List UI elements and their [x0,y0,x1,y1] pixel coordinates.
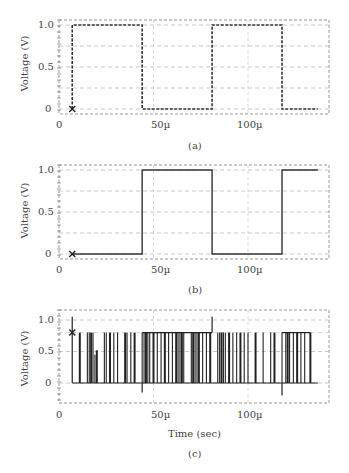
y-tick-05: 0.5 [38,206,54,217]
x-tick-100: 100µ [237,119,263,130]
panel-b: Voltage (V) 1.0 0.5 0 0 50µ 100µ (b) [0,150,349,305]
y-tick-05: 0.5 [38,345,54,356]
panel-a: Voltage (V) 1.0 0.5 0 0 50µ 100µ (a) [0,0,349,150]
caption-b: (b) [188,284,202,295]
chart-c-plot [0,305,349,473]
x-tick-50: 50µ [151,119,170,130]
caption-c: (c) [188,448,201,459]
y-tick-0: 0 [45,377,51,388]
x-tick-50: 50µ [151,409,170,420]
x-tick-100: 100µ [237,264,263,275]
x-tick-0: 0 [56,264,62,275]
x-tick-0: 0 [56,409,62,420]
x-tick-50: 50µ [151,264,170,275]
y-tick-1: 1.0 [38,164,54,175]
y-axis-label: Voltage (V) [19,181,30,241]
y-axis-label: Voltage (V) [19,329,30,389]
x-tick-100: 100µ [237,409,263,420]
x-axis-label: Time (sec) [168,428,221,439]
y-tick-05: 0.5 [38,61,54,72]
y-tick-1: 1.0 [38,314,54,325]
y-tick-0: 0 [45,248,51,259]
y-axis-label: Voltage (V) [19,34,30,94]
y-tick-0: 0 [45,103,51,114]
x-tick-0: 0 [56,119,62,130]
y-tick-1: 1.0 [38,19,54,30]
panel-c: Voltage (V) 1.0 0.5 0 0 50µ 100µ Time (s… [0,305,349,473]
